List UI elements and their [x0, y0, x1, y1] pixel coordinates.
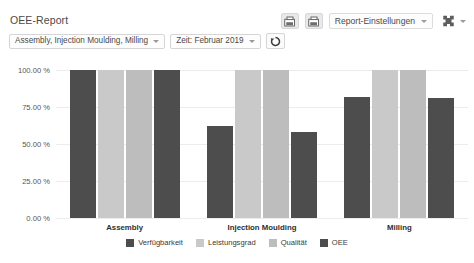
resource-filter-label: Assembly, Injection Moulding, Milling	[15, 37, 148, 45]
y-axis-tick-label: 25.00 %	[22, 177, 50, 186]
chevron-down-icon	[153, 40, 159, 43]
export-pdf-button[interactable]	[281, 13, 299, 29]
bar-verfgbarkeit-assembly[interactable]	[70, 70, 96, 218]
cut-off-text	[0, 259, 474, 263]
header-toolbar: Report-Einstellungen	[281, 13, 469, 29]
chevron-down-icon	[421, 20, 427, 23]
export-excel-icon	[308, 16, 320, 27]
bar-qualitt-assembly[interactable]	[126, 70, 152, 218]
x-axis-category-label: Assembly	[56, 223, 193, 232]
expand-dropdown[interactable]	[439, 13, 469, 29]
x-axis-category-label: Injection Moulding	[193, 223, 330, 232]
export-pdf-icon	[284, 16, 296, 27]
legend-item[interactable]: Verfügbarkeit	[126, 238, 183, 247]
y-axis-tick-label: 0.00 %	[26, 214, 50, 223]
legend-label: Leistungsgrad	[208, 238, 256, 247]
chevron-down-icon	[249, 40, 255, 43]
bar-group: Assembly	[56, 70, 193, 218]
report-settings-dropdown[interactable]: Report-Einstellungen	[329, 13, 433, 29]
legend-label: Verfügbarkeit	[138, 238, 183, 247]
refresh-button[interactable]	[266, 33, 285, 49]
bar-oee-injectionmoulding[interactable]	[291, 132, 317, 218]
chart-legend: VerfügbarkeitLeistungsgradQualitätOEE	[0, 238, 474, 247]
bar-verfgbarkeit-injectionmoulding[interactable]	[207, 126, 233, 218]
legend-label: Qualität	[281, 238, 307, 247]
bar-oee-assembly[interactable]	[154, 70, 180, 218]
page-title: OEE-Report	[10, 14, 68, 26]
gridline: 0.00 %	[56, 218, 468, 219]
bar-leistungsgrad-assembly[interactable]	[98, 70, 124, 218]
legend-swatch	[126, 239, 134, 247]
legend-item[interactable]: OEE	[320, 238, 348, 247]
filter-bar: Assembly, Injection Moulding, Milling Ze…	[9, 33, 285, 49]
time-filter-label: Zeit: Februar 2019	[176, 37, 243, 45]
oee-bar-chart: 100.00 %75.00 %50.00 %25.00 %0.00 % Asse…	[0, 54, 474, 234]
bar-qualitt-milling[interactable]	[400, 70, 426, 218]
report-settings-label: Report-Einstellungen	[335, 16, 415, 26]
legend-item[interactable]: Leistungsgrad	[196, 238, 256, 247]
time-filter-dropdown[interactable]: Zeit: Februar 2019	[170, 34, 260, 49]
chart-plot-area: 100.00 %75.00 %50.00 %25.00 %0.00 % Asse…	[56, 70, 468, 218]
refresh-icon	[270, 36, 281, 47]
bar-leistungsgrad-injectionmoulding[interactable]	[235, 70, 261, 218]
chart-bar-groups: AssemblyInjection MouldingMilling	[56, 70, 468, 218]
resource-filter-dropdown[interactable]: Assembly, Injection Moulding, Milling	[9, 34, 165, 49]
report-header: OEE-Report Assembly, Injection Moulding,…	[0, 0, 474, 54]
chevron-down-icon	[460, 20, 466, 23]
legend-label: OEE	[332, 238, 348, 247]
legend-swatch	[320, 239, 328, 247]
x-axis-category-label: Milling	[331, 223, 468, 232]
bar-qualitt-injectionmoulding[interactable]	[263, 70, 289, 218]
bar-group: Injection Moulding	[193, 70, 330, 218]
bar-verfgbarkeit-milling[interactable]	[344, 97, 370, 218]
expand-icon	[442, 15, 455, 27]
y-axis-tick-label: 50.00 %	[22, 140, 50, 149]
y-axis-tick-label: 75.00 %	[22, 103, 50, 112]
bar-oee-milling[interactable]	[428, 98, 454, 218]
bar-leistungsgrad-milling[interactable]	[372, 70, 398, 218]
legend-item[interactable]: Qualität	[269, 238, 307, 247]
export-excel-button[interactable]	[305, 13, 323, 29]
legend-swatch	[269, 239, 277, 247]
legend-swatch	[196, 239, 204, 247]
bar-group: Milling	[331, 70, 468, 218]
y-axis-tick-label: 100.00 %	[18, 66, 50, 75]
